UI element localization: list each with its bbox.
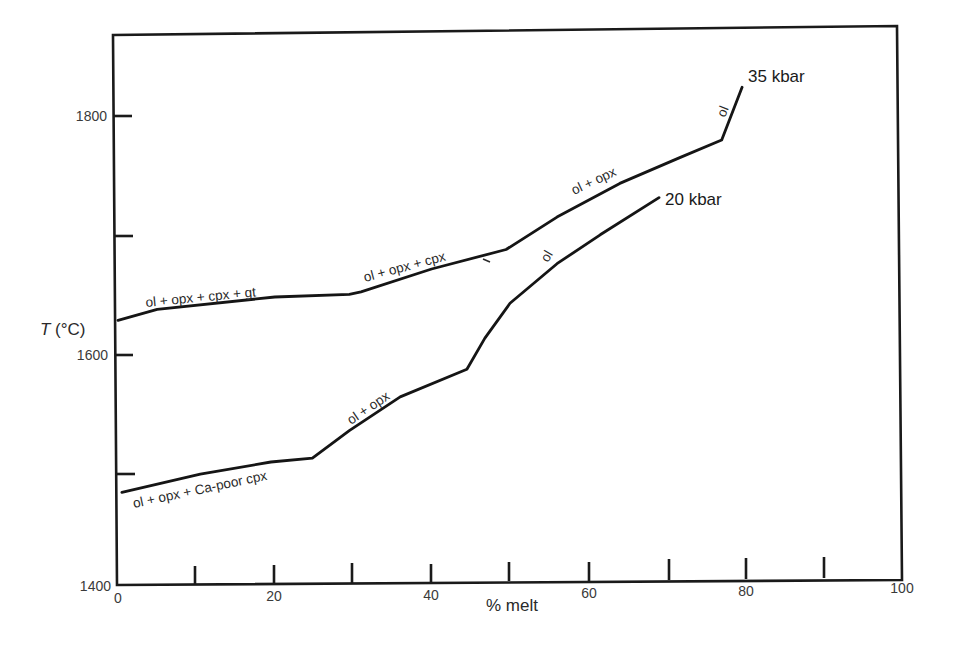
melting-curve-chart: 1800 1600 1400 0 20 40 60 80 100 % melt … xyxy=(0,0,954,655)
x-axis-label: % melt xyxy=(486,596,538,615)
phase-label-20-ol: ol xyxy=(538,248,556,265)
x-tick-label-60: 60 xyxy=(581,585,597,601)
y-axis-label: T (°C) xyxy=(40,320,86,339)
y-axis-unit: (°C) xyxy=(50,320,85,339)
phase-label-35-ol-opx: ol + opx xyxy=(569,164,619,198)
y-tick-label-1800: 1800 xyxy=(76,108,107,124)
series-label-20-kbar: 20 kbar xyxy=(665,190,722,209)
x-tick-label-80: 80 xyxy=(738,583,754,599)
x-tick-label-20: 20 xyxy=(266,588,282,604)
x-tick-label-0: 0 xyxy=(114,590,122,606)
series-label-35-kbar: 35 kbar xyxy=(748,67,805,86)
curve-20-kbar xyxy=(122,198,659,493)
y-tick-label-1600: 1600 xyxy=(77,347,108,363)
x-tick-label-100: 100 xyxy=(890,580,914,596)
x-tick-label-40: 40 xyxy=(423,587,439,603)
y-axis-ticks xyxy=(114,116,135,474)
phase-label-35-ol-opx-cpx: ol + opx + cpx xyxy=(362,249,447,285)
y-tick-label-1400: 1400 xyxy=(80,578,111,594)
phase-label-35-ol: ol xyxy=(714,104,732,119)
stray-mark xyxy=(483,259,490,262)
